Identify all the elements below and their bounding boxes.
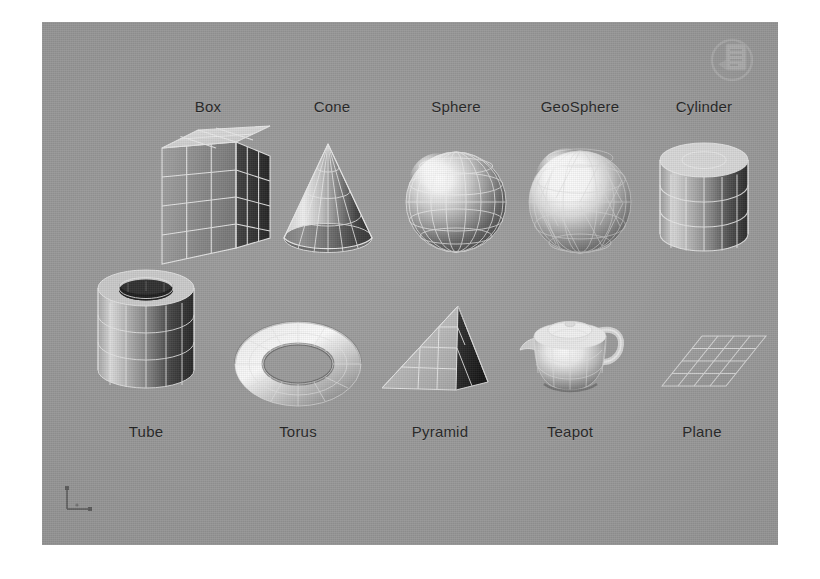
plane-primitive-icon xyxy=(614,278,778,440)
primitive-cell-cylinder[interactable]: Cylinder xyxy=(616,98,778,268)
cylinder-primitive-icon xyxy=(616,98,778,268)
primitive-cell-plane[interactable]: Plane xyxy=(614,278,778,440)
screenshot-root: Box xyxy=(0,0,820,579)
primitive-cell-tube[interactable]: Tube xyxy=(58,240,234,440)
document-watermark-icon xyxy=(704,30,760,86)
axis-tripod-icon xyxy=(60,483,106,517)
3d-viewport[interactable]: Box xyxy=(42,22,778,545)
tube-primitive-icon xyxy=(58,240,234,440)
